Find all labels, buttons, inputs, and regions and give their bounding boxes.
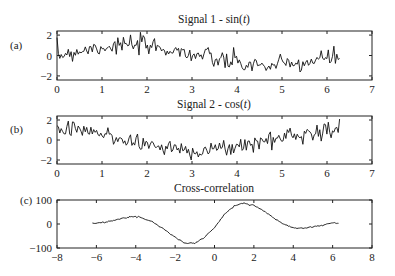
y-tick-label: 0 xyxy=(47,218,53,230)
x-tick-label: 5 xyxy=(279,83,285,95)
panel-b-label: (b) xyxy=(10,123,23,136)
x-tick-label: 4 xyxy=(234,167,240,179)
panel-b-xticks: 01234567 xyxy=(54,116,375,179)
y-tick-label: 100 xyxy=(36,194,53,206)
y-tick-label: −2 xyxy=(40,70,52,82)
cross-correlation-line xyxy=(92,203,338,244)
x-tick-label: 0 xyxy=(212,251,218,263)
signal-1-line xyxy=(57,32,340,72)
panel-c-xticks: −8−6−4−202468 xyxy=(51,200,375,263)
x-tick-label: −4 xyxy=(130,251,142,263)
x-tick-label: 2 xyxy=(144,83,150,95)
panel-c-axes xyxy=(57,200,372,248)
signal-2-line xyxy=(57,119,340,160)
panel-a-title: Signal 1 - sin(t) xyxy=(178,13,250,26)
x-tick-label: 2 xyxy=(144,167,150,179)
x-tick-label: 6 xyxy=(330,251,336,263)
panel-a: (a) Signal 1 - sin(t) 01234567 20−2 xyxy=(10,13,375,95)
panel-b-axes xyxy=(57,116,372,164)
x-tick-label: 5 xyxy=(279,167,285,179)
x-tick-label: 6 xyxy=(324,83,330,95)
x-tick-label: 7 xyxy=(369,83,375,95)
x-tick-label: −8 xyxy=(51,251,63,263)
x-tick-label: 1 xyxy=(99,83,105,95)
y-tick-label: 2 xyxy=(47,114,53,126)
x-tick-label: 0 xyxy=(54,83,60,95)
x-tick-label: 4 xyxy=(291,251,297,263)
x-tick-label: 1 xyxy=(99,167,105,179)
x-tick-label: 6 xyxy=(324,167,330,179)
y-tick-label: −2 xyxy=(40,154,52,166)
x-tick-label: −6 xyxy=(91,251,103,263)
y-tick-label: −100 xyxy=(29,242,52,254)
panel-b-title: Signal 2 - cos(t) xyxy=(177,98,251,111)
x-tick-label: 8 xyxy=(369,251,375,263)
figure: (a) Signal 1 - sin(t) 01234567 20−2 (b) … xyxy=(0,0,395,276)
panel-c-yticks: 1000−100 xyxy=(29,194,372,254)
y-tick-label: 2 xyxy=(47,29,53,41)
panel-c-title: Cross-correlation xyxy=(174,182,254,194)
panel-b-yticks: 20−2 xyxy=(40,114,372,166)
x-tick-label: 3 xyxy=(189,167,195,179)
y-tick-label: 0 xyxy=(47,134,53,146)
x-tick-label: −2 xyxy=(169,251,181,263)
x-tick-label: 2 xyxy=(251,251,257,263)
panel-a-label: (a) xyxy=(10,39,23,52)
y-tick-label: 0 xyxy=(47,50,53,62)
panel-c: (c) Cross-correlation −8−6−4−202468 1000… xyxy=(20,182,375,263)
x-tick-label: 7 xyxy=(369,167,375,179)
panel-b: (b) Signal 2 - cos(t) 01234567 20−2 xyxy=(10,98,375,179)
panel-a-axes xyxy=(57,31,372,80)
x-tick-label: 4 xyxy=(234,83,240,95)
panel-c-label: (c) xyxy=(20,194,33,207)
x-tick-label: 3 xyxy=(189,83,195,95)
x-tick-label: 0 xyxy=(54,167,60,179)
